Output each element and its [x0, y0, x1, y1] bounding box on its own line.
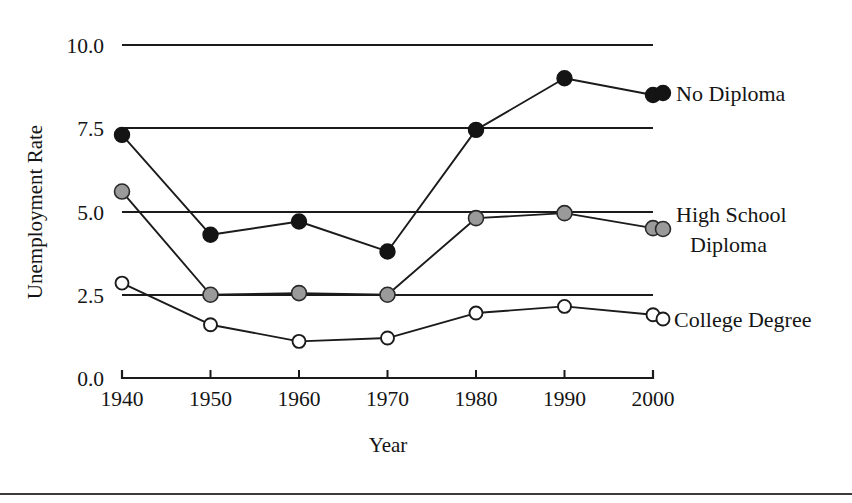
x-tick-label: 1970 — [366, 387, 409, 411]
x-axis — [122, 370, 653, 378]
footer-divider — [0, 493, 852, 495]
legend-label-high-school-diploma-line2: Diploma — [690, 232, 767, 257]
x-tick-label: 1950 — [189, 387, 232, 411]
data-point — [292, 286, 307, 301]
series-line-no-diploma — [122, 78, 653, 251]
y-tick-label: 2.5 — [77, 284, 104, 308]
y-tick-label: 5.0 — [77, 201, 104, 225]
data-point — [557, 206, 572, 221]
data-point — [203, 287, 218, 302]
data-point — [381, 332, 394, 345]
data-point — [469, 122, 484, 137]
data-point — [204, 318, 217, 331]
data-point — [203, 227, 218, 242]
x-tick-label: 1960 — [278, 387, 321, 411]
legend-marker-high-school-diploma — [656, 222, 671, 237]
data-point — [380, 244, 395, 259]
x-tick-label: 1990 — [543, 387, 586, 411]
legend: No Diploma High School Diploma College D… — [656, 81, 812, 332]
y-axis-tick-labels: 10.0 7.5 5.0 2.5 0.0 — [66, 34, 104, 391]
unemployment-rate-line-chart: 10.0 7.5 5.0 2.5 0.0 — [0, 0, 852, 503]
data-point — [470, 307, 483, 320]
chart-canvas: 10.0 7.5 5.0 2.5 0.0 — [0, 0, 852, 503]
y-axis-title: Unemployment Rate — [23, 125, 47, 299]
legend-label-high-school-diploma-line1: High School — [676, 202, 787, 227]
data-point — [293, 335, 306, 348]
data-point — [115, 184, 130, 199]
y-tick-label: 7.5 — [77, 117, 104, 141]
series-layer — [115, 71, 661, 348]
x-axis-title: Year — [369, 433, 408, 457]
x-tick-label: 1940 — [101, 387, 144, 411]
data-point — [469, 211, 484, 226]
series-no-diploma — [115, 71, 661, 259]
legend-label-college-degree: College Degree — [674, 307, 811, 332]
data-point — [292, 214, 307, 229]
legend-marker-college-degree — [657, 313, 670, 326]
y-tick-label: 10.0 — [66, 34, 104, 58]
data-point — [115, 127, 130, 142]
x-tick-label: 2000 — [632, 387, 675, 411]
data-point — [557, 71, 572, 86]
data-point — [380, 287, 395, 302]
x-axis-tick-labels: 1940 1950 1960 1970 1980 1990 2000 — [101, 387, 675, 411]
legend-marker-no-diploma — [656, 86, 671, 101]
series-high-school-diploma — [115, 184, 661, 302]
data-point — [116, 277, 129, 290]
legend-label-no-diploma: No Diploma — [676, 81, 786, 106]
data-point — [558, 300, 571, 313]
chart-page: 10.0 7.5 5.0 2.5 0.0 — [0, 0, 852, 503]
series-line-high-school-diploma — [122, 192, 653, 295]
x-tick-label: 1980 — [455, 387, 498, 411]
